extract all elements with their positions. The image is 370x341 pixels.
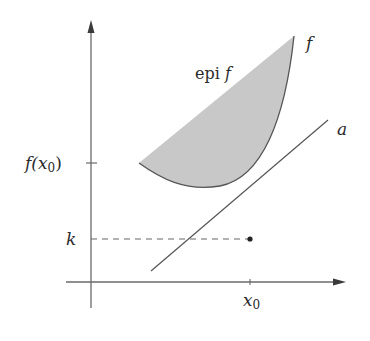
epigraph-region: [139, 36, 294, 187]
curve-label-f: f: [304, 33, 315, 53]
line-label-a: a: [337, 119, 347, 139]
x-tick-label-x0: x0: [243, 290, 260, 312]
diagram-canvas: epi f f a f(x0) k x0: [0, 0, 370, 341]
y-tick-label-fx0: f(x0): [23, 153, 62, 175]
epigraph-diagram: epi f f a f(x0) k x0: [0, 0, 370, 341]
y-tick-label-k: k: [66, 229, 76, 249]
y-axis-arrow-icon: [88, 20, 95, 33]
point-x0-k: [247, 236, 252, 241]
epigraph-label: epi f: [195, 64, 234, 83]
x-axis-arrow-icon: [333, 279, 346, 286]
